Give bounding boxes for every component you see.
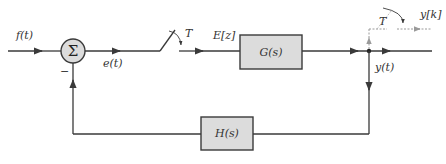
input-label: f(t) — [16, 30, 33, 41]
output-label: y(t) — [375, 62, 394, 73]
sampler-switch — [160, 30, 181, 51]
sampled-error-label: E[z] — [213, 30, 235, 41]
minus-sign: − — [60, 66, 69, 77]
feedback-block-label: H(s) — [201, 117, 253, 150]
sigma-symbol: Σ — [61, 39, 85, 63]
forward-block-label: G(s) — [240, 35, 302, 69]
sampler-period-label-1: T — [185, 28, 192, 39]
block-diagram: Σ f(t) − e(t) T E[z] G(s) T y[k] y(t) H(… — [0, 0, 446, 164]
sampled-output-label: y[k] — [420, 9, 441, 20]
feedback-path-left — [73, 63, 201, 134]
error-label: e(t) — [103, 58, 123, 69]
sampler-period-label-2: T — [379, 16, 386, 27]
